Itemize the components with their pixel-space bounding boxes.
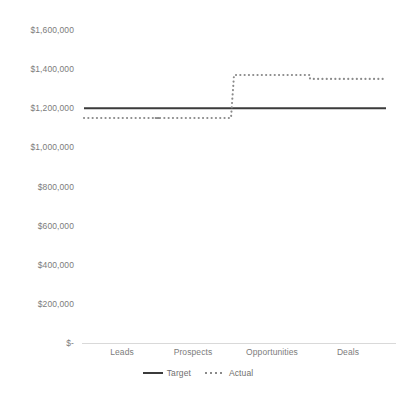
series-layer <box>82 0 396 399</box>
y-axis: $1,600,000$1,400,000$1,200,000$1,000,000… <box>0 0 82 399</box>
y-axis-tick-label: $1,000,000 <box>30 142 74 152</box>
x-axis: LeadsProspectsOpportunitiesDeals <box>82 347 396 363</box>
x-axis-tick-label: Prospects <box>174 347 213 357</box>
x-axis-tick-label: Leads <box>110 347 134 357</box>
plot-area <box>82 0 396 399</box>
y-axis-tick-label: $200,000 <box>38 299 74 309</box>
x-axis-tick-label: Deals <box>337 347 359 357</box>
line-chart: $1,600,000$1,400,000$1,200,000$1,000,000… <box>0 0 396 399</box>
y-axis-tick-label: $1,600,000 <box>30 25 74 35</box>
y-axis-tick-label: $400,000 <box>38 260 74 270</box>
legend-item-target[interactable]: Target <box>143 368 191 378</box>
series-line-actual <box>84 75 386 118</box>
y-axis-tick-label: $1,200,000 <box>30 103 74 113</box>
legend-item-actual[interactable]: Actual <box>205 368 253 378</box>
y-axis-tick-label: $800,000 <box>38 182 74 192</box>
x-axis-tick-label: Opportunities <box>246 347 298 357</box>
y-axis-tick-label: $1,400,000 <box>30 64 74 74</box>
legend-label-actual: Actual <box>229 368 253 378</box>
dotted-line-swatch-icon <box>205 372 225 374</box>
chart-legend: Target Actual <box>0 368 396 378</box>
y-axis-tick-label: $- <box>66 338 74 348</box>
y-axis-tick-label: $600,000 <box>38 221 74 231</box>
solid-line-swatch-icon <box>143 372 163 374</box>
legend-label-target: Target <box>167 368 191 378</box>
